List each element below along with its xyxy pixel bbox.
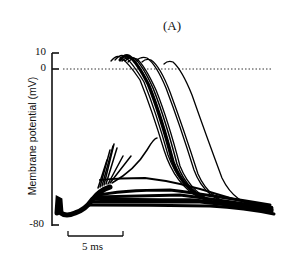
figure-panel-a: (A) 10 0 -80 Membrane potential (mV) 5 m… [0,0,296,269]
voltage-traces [57,56,274,216]
time-scale-bar [68,231,123,236]
plot-area [0,0,296,269]
